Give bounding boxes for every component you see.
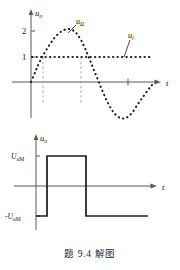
top-y-axis [29,9,34,118]
bottom-x-axis-arrow [151,183,158,188]
sine-curve [31,29,152,118]
top-y-ticks [31,31,35,57]
top-ytick-label-2: 2 [22,26,26,36]
top-y-axis-title: uo [35,8,42,19]
waveform-chart-output: uo t UoM -UoM [0,130,180,240]
top-x-axis-title: t [166,78,169,88]
waveform-chart-input: uΩ ui uo t 1 2 [0,0,180,132]
top-x-axis [12,79,161,86]
negative-level-label: -UoM [5,212,21,222]
top-y-axis-arrow [29,9,34,15]
bottom-y-axis-title: uo [40,133,47,144]
figure-container: uΩ ui uo t 1 2 [0,0,180,270]
sine-curve-label: uΩ [76,17,84,27]
bottom-chart-svg: uo t UoM -UoM [0,130,180,240]
top-chart-svg: uΩ ui uo t 1 2 [0,0,180,132]
top-x-axis-arrow [155,79,162,84]
positive-level-label: UoM [11,152,24,162]
top-ytick-label-1: 1 [22,52,26,62]
input-level-leader [124,40,130,57]
figure-caption: 题 9.4 解图 [0,246,180,260]
input-level-label: ui [128,31,134,41]
bottom-y-axis-arrow [34,134,39,140]
bottom-x-axis-title: t [162,182,165,192]
